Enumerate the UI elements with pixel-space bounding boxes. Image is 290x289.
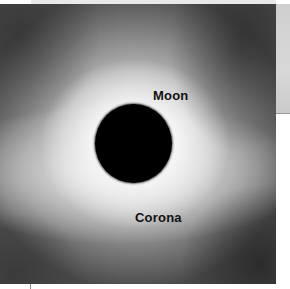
corona-label: Corona: [135, 210, 182, 225]
eclipse-photo: Moon Corona: [0, 4, 276, 284]
divider-line: [30, 284, 31, 289]
moon-disk: [95, 104, 172, 183]
adjacent-figure-edge: [276, 4, 290, 114]
moon-label: Moon: [153, 88, 188, 103]
